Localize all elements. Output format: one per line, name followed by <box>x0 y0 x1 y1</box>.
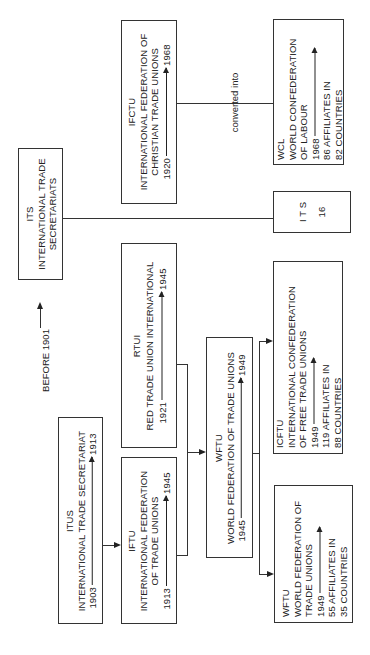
connector-ifctu-to-wcl <box>176 103 273 104</box>
wftu1949-affiliates: 55 AFFILIATES IN <box>325 491 337 617</box>
timeline-arrow-icon <box>319 527 320 593</box>
ifctu-name-2: CHRISTIAN TRADE UNIONS <box>149 22 161 202</box>
arrow-right-icon <box>266 338 273 344</box>
before-1901-label: BEFORE 1901 <box>40 329 51 392</box>
iftu-abbr: IFTU <box>126 459 138 623</box>
wcl-abbr: WCL <box>274 24 286 160</box>
timeline-arrow-icon <box>241 378 242 518</box>
node-wftu-1945: WFTU WORLD FEDERATION OF TRADE UNIONS 19… <box>206 337 253 558</box>
wftu1949-name-1: WORLD FEDERATION OF <box>291 491 303 617</box>
icftu-abbr: ICFTU <box>274 268 286 448</box>
itus-timeline: 1903 1913 <box>86 419 98 623</box>
timeline-arrow-icon <box>162 292 163 400</box>
icftu-timeline: 1949 <box>308 268 320 448</box>
connector-wftu1945-out <box>252 453 259 454</box>
ifctu-name-1: INTERNATIONAL FEDERATION OF <box>138 22 150 202</box>
before-1901-arrow-line <box>40 308 41 328</box>
connector-to-wftu1945 <box>187 452 199 453</box>
wftu1949-timeline: 1949 <box>314 491 326 617</box>
rtui-abbr: RTUI <box>130 246 143 446</box>
wftu1949-countries: 35 COUNTRIES <box>337 491 349 617</box>
timeline-arrow-icon <box>313 358 314 424</box>
wftu1949-name-2: TRADE UNIONS <box>302 491 314 617</box>
timeline-arrow-icon <box>166 496 167 586</box>
wftu1945-timeline: 1945 1949 <box>235 339 247 557</box>
its-name-2: SECRETARIATS <box>46 149 58 279</box>
icftu-name-1: INTERNATIONAL CONFEDERATION <box>285 268 297 448</box>
icftu-countries: 88 COUNTRIES <box>331 268 343 448</box>
itus-abbr: ITUS <box>63 419 75 623</box>
its-name-1: INTERNATIONAL TRADE <box>35 149 47 279</box>
timeline-arrow-icon <box>92 457 93 585</box>
iftu-name-1: INTERNATIONAL FEDERATION <box>138 459 150 623</box>
its-count-value: 16 <box>312 192 331 232</box>
wftu1945-name-1: WORLD FEDERATION OF TRADE UNIONS <box>224 339 236 557</box>
ifctu-timeline: 1920 1968 <box>161 22 173 202</box>
iftu-name-2: OF TRADE UNIONS <box>149 459 161 623</box>
icftu-affiliates: 119 AFFILIATES IN <box>320 268 332 448</box>
node-itus: ITUS INTERNATIONAL TRADE SECRETARIAT 190… <box>58 417 103 624</box>
wcl-timeline: 1968 <box>309 24 321 160</box>
ifctu-abbr: IFCTU <box>126 22 138 202</box>
node-iftu: IFTU INTERNATIONAL FEDERATION OF TRADE U… <box>121 457 177 624</box>
iftu-timeline: 1913 1945 <box>161 459 173 623</box>
node-ifctu: IFCTU INTERNATIONAL FEDERATION OF CHRIST… <box>121 20 177 204</box>
node-icftu: ICFTU INTERNATIONAL CONFEDERATION OF FRE… <box>273 261 343 454</box>
connector-merge-vertical <box>187 364 188 556</box>
wftu1949-abbr: WFTU <box>279 491 291 617</box>
wcl-name-1: WORLD CONFEDERATION <box>286 24 298 160</box>
node-wftu-1949: WFTU WORLD FEDERATION OF TRADE UNIONS 19… <box>274 485 353 623</box>
rtui-timeline: 1921 1945 <box>156 246 169 446</box>
arrow-right-icon <box>199 449 206 455</box>
arrow-right-icon <box>114 542 121 548</box>
itus-name-1: INTERNATIONAL TRADE SECRETARIAT <box>75 419 87 623</box>
arrow-up-icon <box>37 302 43 309</box>
connector-to-wftu1949 <box>259 574 267 575</box>
icftu-name-2: OF FREE TRADE UNIONS <box>297 268 309 448</box>
node-rtui: RTUI RED TRADE UNION INTERNATIONAL 1921 … <box>121 243 177 448</box>
rtui-name-1: RED TRADE UNION INTERNATIONAL <box>143 246 156 446</box>
connector-its-to-its16 <box>62 218 273 219</box>
its-abbr: ITS <box>23 149 35 279</box>
its-count-abbr: I T S <box>293 192 312 232</box>
wcl-countries: 82 COUNTRIES <box>332 24 344 160</box>
connector-iftu-out <box>176 555 187 556</box>
connector-rtui-out <box>176 364 187 365</box>
arrow-right-icon <box>267 571 274 577</box>
connector-split-vertical <box>259 341 260 574</box>
wcl-name-2: OF LABOUR <box>297 24 309 160</box>
timeline-arrow-icon <box>314 48 315 136</box>
node-its: ITS INTERNATIONAL TRADE SECRETARIATS <box>18 148 63 280</box>
wftu1945-abbr: WFTU <box>212 339 224 557</box>
node-its-count: I T S 16 <box>273 191 351 233</box>
node-wcl: WCL WORLD CONFEDERATION OF LABOUR 1968 8… <box>273 19 344 165</box>
converted-into-label: converted into <box>229 73 240 133</box>
wcl-affiliates: 86 AFFILIATES IN <box>320 24 332 160</box>
timeline-arrow-icon <box>166 68 167 156</box>
